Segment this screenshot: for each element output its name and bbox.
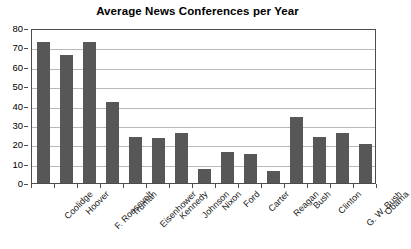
bar <box>37 42 50 183</box>
y-tick-label: 60 <box>12 63 23 73</box>
bar-slot <box>308 30 331 183</box>
y-tick-mark <box>24 107 28 108</box>
x-tick-mark <box>376 184 377 188</box>
y-tick-mark <box>24 184 28 185</box>
bar <box>221 152 234 183</box>
x-tick-mark <box>238 184 239 188</box>
x-tick-mark <box>353 184 354 188</box>
bar <box>267 171 280 183</box>
bar <box>336 133 349 183</box>
y-tick-mark <box>24 165 28 166</box>
x-tick-mark <box>307 184 308 188</box>
bar <box>129 137 142 184</box>
bar-slot <box>285 30 308 183</box>
y-tick-label: 30 <box>12 121 23 131</box>
bar-slot <box>101 30 124 183</box>
bar-slot <box>32 30 55 183</box>
y-tick-mark <box>24 145 28 146</box>
x-tick-mark <box>146 184 147 188</box>
bar <box>152 138 165 183</box>
x-tick-mark <box>192 184 193 188</box>
bar-slot <box>147 30 170 183</box>
x-tick-mark <box>100 184 101 188</box>
bar-slot <box>262 30 285 183</box>
bar <box>106 102 119 183</box>
y-tick-label: 70 <box>12 43 23 53</box>
x-tick-label: Ford <box>242 189 262 209</box>
y-tick-label: 0 <box>18 179 23 189</box>
x-tick-mark <box>169 184 170 188</box>
y-tick-label: 20 <box>12 140 23 150</box>
x-axis: CoolidgeHooverF. RooseveltTrumanEisenhow… <box>31 189 376 249</box>
x-tick-mark <box>330 184 331 188</box>
x-tick-mark <box>261 184 262 188</box>
bar <box>313 137 326 184</box>
y-tick-label: 40 <box>12 102 23 112</box>
y-tick-mark <box>24 68 28 69</box>
bar <box>198 169 211 183</box>
x-tick-label: Clinton <box>336 189 363 216</box>
bar-slot <box>193 30 216 183</box>
bar-slot <box>124 30 147 183</box>
y-tick-mark <box>24 87 28 88</box>
bars-layer <box>32 30 375 183</box>
x-tick-mark <box>123 184 124 188</box>
plot-area <box>31 29 376 184</box>
bar <box>175 133 188 183</box>
y-tick-label: 80 <box>12 24 23 34</box>
bar-slot <box>170 30 193 183</box>
bar <box>83 42 96 183</box>
y-tick-label: 50 <box>12 82 23 92</box>
bar-slot <box>331 30 354 183</box>
y-tick-mark <box>24 48 28 49</box>
x-tick-mark <box>54 184 55 188</box>
x-tick-mark <box>77 184 78 188</box>
bar <box>244 154 257 183</box>
y-tick-label: 10 <box>12 160 23 170</box>
bar <box>359 144 372 183</box>
bar-slot <box>55 30 78 183</box>
x-tick-mark <box>215 184 216 188</box>
x-tick-label: Carter <box>266 189 291 214</box>
x-tick-mark <box>284 184 285 188</box>
bar <box>60 55 73 183</box>
y-tick-mark <box>24 126 28 127</box>
bar-slot <box>239 30 262 183</box>
y-tick-mark <box>24 29 28 30</box>
bar-slot <box>354 30 377 183</box>
chart-title: Average News Conferences per Year <box>0 4 395 18</box>
y-axis: 01020304050607080 <box>0 29 28 184</box>
bar-slot <box>78 30 101 183</box>
bar <box>290 117 303 183</box>
x-tick-mark <box>31 184 32 188</box>
bar-slot <box>216 30 239 183</box>
